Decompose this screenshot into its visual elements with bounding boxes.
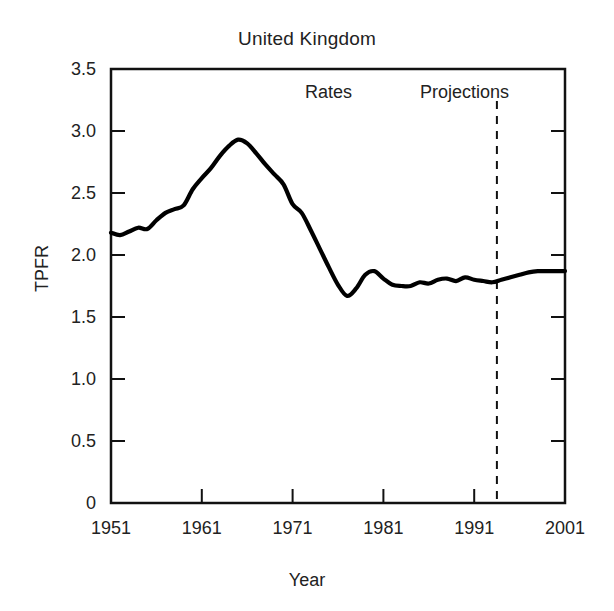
chart-figure: United Kingdom Rates Projections TPFR Ye… <box>0 0 614 611</box>
x-axis-ticks <box>202 489 474 503</box>
plot-area <box>0 0 614 611</box>
